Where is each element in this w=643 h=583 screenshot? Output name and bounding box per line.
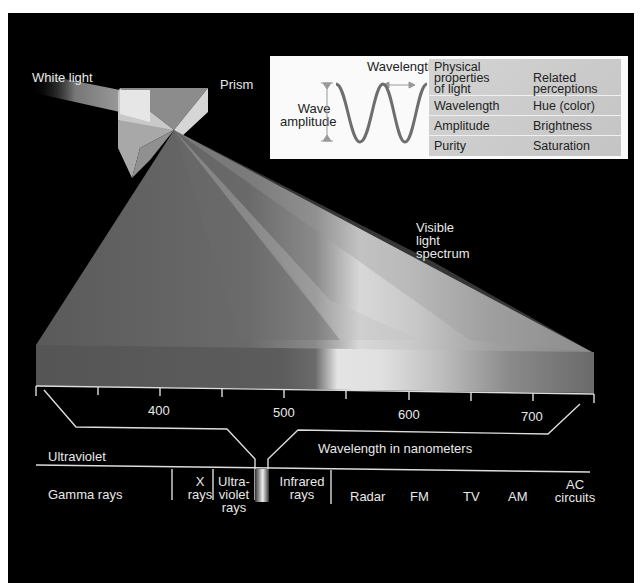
table-row: Amplitude Brightness xyxy=(429,116,621,136)
visible-spectrum-label-line3: spectrum xyxy=(416,247,469,261)
table-header-row: Physical properties of light Related per… xyxy=(429,59,621,96)
band-infrared-line2: rays xyxy=(272,488,332,502)
cell-perception: Saturation xyxy=(533,140,590,152)
table-row: Purity Saturation xyxy=(429,136,621,155)
band-fm: FM xyxy=(410,490,429,504)
cell-property: Wavelength xyxy=(434,100,500,112)
wavelength-axis-label: Wavelength in nanometers xyxy=(318,442,472,456)
cell-property: Amplitude xyxy=(434,120,490,132)
white-light-label: White light xyxy=(32,71,93,85)
cell-perception: Hue (color) xyxy=(533,100,595,112)
visible-spectrum-slab xyxy=(36,345,594,393)
visible-band-strip xyxy=(255,469,269,502)
wave-inset: Wavelength Wave amplitude Physical prope… xyxy=(270,56,628,159)
band-am: AM xyxy=(508,490,528,504)
prism-label: Prism xyxy=(220,78,253,92)
ultraviolet-label: Ultraviolet xyxy=(48,450,106,464)
tick-label-700: 700 xyxy=(521,410,543,424)
diagram-panel: White light Prism Visible light spectrum… xyxy=(8,13,634,583)
tick-label-500: 500 xyxy=(273,406,295,420)
properties-table: Physical properties of light Related per… xyxy=(429,59,621,156)
band-ac-circuits-line2: circuits xyxy=(545,491,605,505)
tick-label-400: 400 xyxy=(148,404,170,418)
band-tv: TV xyxy=(463,490,480,504)
header-related-line2: perceptions xyxy=(533,83,598,95)
band-radar: Radar xyxy=(350,490,385,504)
tick-label-600: 600 xyxy=(398,408,420,422)
cell-property: Purity xyxy=(434,140,466,152)
table-row: Wavelength Hue (color) xyxy=(429,96,621,116)
band-gamma-rays: Gamma rays xyxy=(48,488,122,502)
header-physical-line3: of light xyxy=(434,83,471,95)
cell-perception: Brightness xyxy=(533,120,592,132)
sine-wave-icon xyxy=(270,56,430,159)
band-uv-rays-line3: rays xyxy=(214,501,254,515)
